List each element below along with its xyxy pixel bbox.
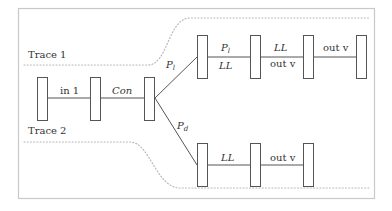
trace-2-label: Trace 2 [28,125,66,136]
label-upper-1-bottom: LL [218,60,233,71]
edge-branch-lower [155,98,197,165]
label-upper-2-bottom: out v [270,58,296,69]
node-upper-4 [357,36,367,79]
node-lower-2 [251,144,261,187]
diagram-frame [19,9,375,199]
label-branch-lower: Pd [176,120,189,133]
label-lower-1-top: LL [220,152,235,163]
label-in1: in 1 [60,85,79,96]
node-shared-1 [38,78,48,121]
node-shared-3 [145,78,155,121]
trace-1-label: Trace 1 [28,49,66,60]
node-lower-3 [304,144,314,187]
label-con: Con [112,85,132,96]
label-lower-2-top: out v [270,152,296,163]
node-upper-1 [198,36,208,79]
node-upper-2 [251,36,261,79]
label-branch-upper: Pl [165,59,175,72]
node-upper-3 [304,36,314,79]
label-upper-3-top: out v [323,42,349,53]
node-lower-1 [198,144,208,187]
label-upper-2-top: LL [273,42,288,53]
label-upper-1-top: Pl [220,42,230,55]
edge-branch-upper [155,57,197,98]
trace-diagram: Trace 1 Trace 2 in 1 Con Pl Pd Pl LL LL … [0,0,392,211]
node-shared-2 [91,78,101,121]
